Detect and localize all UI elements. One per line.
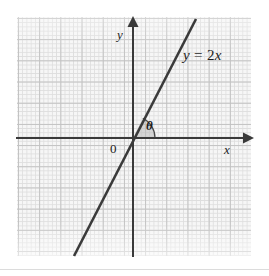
axes-and-line-layer xyxy=(0,0,269,276)
origin-label: 0 xyxy=(110,142,117,155)
equation-lhs: y xyxy=(183,47,190,63)
equation-coefficient: 2 xyxy=(207,47,215,63)
x-axis-label: x xyxy=(224,143,230,156)
equation-variable: x xyxy=(215,47,222,63)
y-axis-label: y xyxy=(117,28,123,41)
angle-theta-label: θ xyxy=(146,119,153,132)
graph-figure: y x 0 θ y=2x xyxy=(0,0,269,276)
bottom-divider xyxy=(0,269,269,270)
y-axis-arrowhead-icon xyxy=(128,16,139,27)
line-equation-label: y=2x xyxy=(183,48,222,63)
equation-equals-sign: = xyxy=(194,47,203,63)
x-axis-arrowhead-icon xyxy=(243,133,254,144)
